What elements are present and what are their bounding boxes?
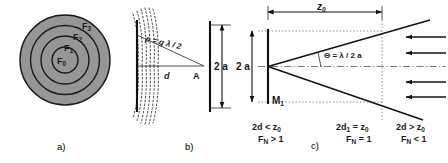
figure-container: F3 F2 F1 F0 a) [0,0,448,163]
condition-group-3: 2d > z0 FN < 1 [396,122,426,145]
panel-caption-b: b) [185,141,193,152]
rho-label: ρ = q λ / 2 [144,34,183,51]
point-label-a: A [193,71,200,81]
figure-svg: F3 F2 F1 F0 a) [0,0,448,163]
condition-3-top: 2d > z0 [396,122,425,133]
z0-label: z0 [316,1,326,13]
condition-1-bottom: FN > 1 [258,134,283,145]
panel-a-zone-plate: F3 F2 F1 F0 a) [20,15,110,152]
aperture-label-b: 2 a [214,61,228,72]
beam-edge-lower [268,67,423,121]
panel-b-wavefront: ρ = q λ / 2 d A 2 a b) [133,8,231,152]
condition-group-1: 2d < z0 FN > 1 [252,122,283,145]
beam-direction-arrows [406,37,446,97]
mirror-label-m1: M1 [272,95,284,107]
panel-caption-a: a) [57,141,65,152]
aperture-label-c: 2 a [236,61,250,72]
condition-3-bottom: FN < 1 [401,134,426,145]
theta-label: Θ = λ / 2 a [324,51,362,60]
theta-angle-arc [318,52,321,67]
condition-2-top: 2d1 = z0 [336,122,369,133]
panel-caption-c: c) [311,140,319,151]
condition-1-top: 2d < z0 [252,122,281,133]
condition-group-2: 2d1 = z0 FN = 1 [336,122,371,145]
condition-2-bottom: FN = 1 [346,134,371,145]
panel-c-divergence: z0 2 a Θ = λ / 2 a M1 [236,1,446,151]
distance-label-d: d [164,71,170,81]
